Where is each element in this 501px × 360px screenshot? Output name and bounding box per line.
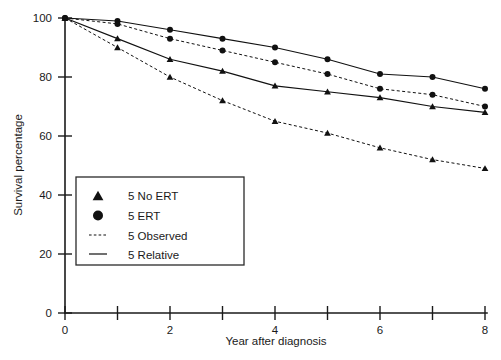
y-tick-label: 80 bbox=[39, 71, 52, 83]
y-tick-label: 20 bbox=[39, 248, 52, 260]
y-axis-ticks: 020406080100 bbox=[33, 12, 72, 319]
y-tick-label: 60 bbox=[39, 130, 52, 142]
x-tick-label: 0 bbox=[62, 324, 68, 336]
data-point-circle bbox=[430, 74, 436, 80]
legend-label: 5 No ERT bbox=[128, 190, 178, 202]
data-point-circle bbox=[220, 36, 226, 42]
data-point-triangle bbox=[324, 130, 331, 136]
data-point-triangle bbox=[114, 44, 121, 50]
data-point-triangle bbox=[167, 74, 174, 80]
legend-circle-icon bbox=[93, 211, 103, 221]
data-point-circle bbox=[430, 92, 436, 98]
legend-label: 5 Relative bbox=[128, 249, 179, 261]
x-axis-title: Year after diagnosis bbox=[225, 335, 326, 347]
legend-label: 5 ERT bbox=[128, 210, 160, 222]
survival-chart: 020406080100 02468 Year after diagnosis … bbox=[0, 0, 501, 360]
data-point-circle bbox=[377, 71, 383, 77]
chart-legend: 5 No ERT5 ERT5 Observed5 Relative bbox=[76, 177, 244, 265]
data-point-triangle bbox=[219, 97, 226, 103]
data-point-triangle bbox=[272, 118, 279, 124]
y-tick-label: 40 bbox=[39, 189, 52, 201]
x-tick-label: 2 bbox=[167, 324, 173, 336]
data-point-circle bbox=[325, 56, 331, 62]
data-point-circle bbox=[325, 71, 331, 77]
data-point-circle bbox=[167, 36, 173, 42]
data-point-circle bbox=[167, 27, 173, 33]
data-series-group bbox=[62, 15, 489, 171]
data-point-circle bbox=[220, 47, 226, 53]
data-point-circle bbox=[377, 86, 383, 92]
y-tick-label: 100 bbox=[33, 12, 52, 24]
data-point-circle bbox=[272, 45, 278, 51]
y-tick-label: 0 bbox=[46, 307, 52, 319]
data-point-circle bbox=[482, 86, 488, 92]
series-line-5-no-ert-observed bbox=[65, 18, 485, 168]
x-axis-ticks: 02468 bbox=[62, 306, 488, 336]
data-point-circle bbox=[272, 59, 278, 65]
x-tick-label: 6 bbox=[377, 324, 383, 336]
y-axis-title: Survival percentage bbox=[12, 114, 24, 216]
data-point-circle bbox=[115, 21, 121, 27]
legend-label: 5 Observed bbox=[128, 230, 187, 242]
plot-area: 020406080100 02468 Year after diagnosis … bbox=[0, 0, 501, 360]
data-point-circle bbox=[482, 104, 488, 110]
x-tick-label: 8 bbox=[482, 324, 488, 336]
data-point-triangle bbox=[482, 165, 489, 171]
data-point-triangle bbox=[429, 156, 436, 162]
